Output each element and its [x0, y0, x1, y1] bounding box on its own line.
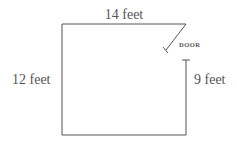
top-dimension-label: 14 feet: [105, 7, 144, 22]
floor-plan-diagram: 14 feet 12 feet 9 feet DOOR: [0, 0, 237, 143]
room-walls: [62, 24, 186, 135]
left-dimension-label: 12 feet: [12, 72, 51, 87]
right-dimension-label: 9 feet: [194, 72, 226, 87]
door-label: DOOR: [179, 41, 201, 48]
